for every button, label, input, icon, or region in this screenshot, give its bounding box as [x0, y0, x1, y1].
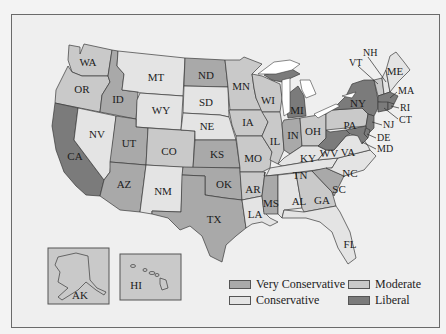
label-NV: NV: [89, 128, 105, 140]
swatch-conservative: [229, 296, 251, 305]
label-TN: TN: [293, 169, 308, 181]
legend-label-moderate: Moderate: [375, 277, 421, 292]
label-AZ: AZ: [117, 178, 132, 190]
label-IN: IN: [287, 129, 299, 141]
label-NE: NE: [200, 120, 215, 132]
label-HI: HI: [130, 279, 142, 291]
lake-michigan: [282, 78, 290, 116]
label-OR: OR: [74, 83, 90, 95]
legend-liberal: Liberal: [348, 293, 410, 308]
label-LA: LA: [248, 208, 263, 220]
state-CT[interactable]: [378, 102, 388, 112]
label-VT: VT: [349, 57, 362, 68]
label-ME: ME: [387, 65, 404, 77]
label-GA: GA: [314, 194, 330, 206]
label-CT: CT: [399, 114, 412, 125]
label-AR: AR: [245, 183, 261, 195]
label-WY: WY: [152, 104, 170, 116]
label-NJ: NJ: [383, 119, 394, 130]
inset-hawaii-box: [120, 254, 181, 300]
swatch-liberal: [348, 296, 370, 305]
label-CO: CO: [161, 145, 176, 157]
label-ID: ID: [112, 93, 124, 105]
label-RI: RI: [400, 102, 410, 113]
label-DE: DE: [377, 132, 390, 143]
label-VA: VA: [341, 146, 356, 158]
legend-label-liberal: Liberal: [375, 293, 410, 308]
label-AK: AK: [72, 289, 88, 301]
legend-very-conservative: Very Conservative: [229, 277, 345, 292]
label-MO: MO: [244, 152, 262, 164]
label-OK: OK: [216, 178, 232, 190]
state-FL[interactable]: [282, 206, 356, 264]
legend-moderate: Moderate: [348, 277, 421, 292]
label-MN: MN: [232, 80, 250, 92]
legend-conservative: Conservative: [229, 293, 319, 308]
label-AL: AL: [292, 195, 307, 207]
label-NM: NM: [154, 185, 172, 197]
legend-label-conservative: Conservative: [256, 293, 319, 308]
label-TX: TX: [207, 213, 222, 225]
label-KY: KY: [300, 152, 316, 164]
swatch-very-conservative: [229, 280, 251, 289]
legend: Very Conservative Conservative Moderate …: [229, 277, 429, 317]
label-NY: NY: [350, 97, 366, 109]
label-PA: PA: [343, 119, 356, 131]
label-NC: NC: [342, 167, 357, 179]
swatch-moderate: [348, 280, 370, 289]
label-MT: MT: [148, 71, 165, 83]
label-OH: OH: [305, 125, 321, 137]
label-MS: MS: [263, 197, 279, 209]
legend-label-very-conservative: Very Conservative: [256, 277, 345, 292]
label-SD: SD: [199, 96, 213, 108]
label-SC: SC: [332, 183, 345, 195]
label-FL: FL: [344, 238, 357, 250]
label-WV: WV: [320, 147, 338, 159]
label-WA: WA: [79, 56, 96, 68]
label-CA: CA: [67, 150, 82, 162]
label-MD: MD: [377, 143, 393, 154]
label-NH: NH: [363, 47, 377, 58]
label-ND: ND: [198, 69, 214, 81]
label-IA: IA: [242, 116, 254, 128]
label-WI: WI: [261, 94, 275, 106]
label-MI: MI: [290, 104, 304, 116]
label-IL: IL: [270, 135, 281, 147]
label-MA: MA: [398, 85, 415, 96]
label-KS: KS: [210, 148, 224, 160]
label-UT: UT: [122, 137, 137, 149]
